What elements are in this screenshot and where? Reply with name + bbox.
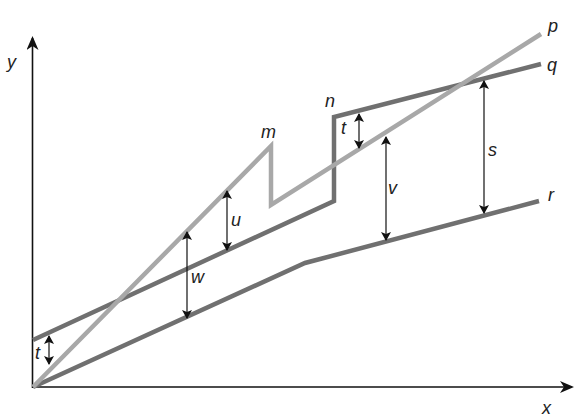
y-axis-label: y bbox=[5, 52, 17, 72]
line-labels: p q r m n bbox=[261, 16, 558, 205]
measure-t-right: t bbox=[341, 114, 359, 148]
line-p bbox=[33, 34, 541, 387]
label-n: n bbox=[325, 91, 335, 111]
measure-w: w bbox=[187, 232, 205, 318]
label-p: p bbox=[547, 16, 558, 36]
line-q bbox=[33, 64, 541, 340]
curves bbox=[33, 34, 541, 387]
label-q: q bbox=[547, 55, 557, 75]
measure-t-right-label: t bbox=[341, 118, 347, 138]
measure-u: u bbox=[227, 191, 241, 250]
measure-v: v bbox=[386, 137, 398, 240]
line-r bbox=[33, 201, 539, 387]
measure-t-left-label: t bbox=[35, 343, 41, 363]
measure-s-label: s bbox=[488, 140, 497, 160]
label-r: r bbox=[548, 185, 555, 205]
measure-v-label: v bbox=[388, 178, 398, 198]
measure-s: s bbox=[484, 81, 497, 213]
diagram: y x p q r m n t t u bbox=[0, 0, 584, 419]
x-axis-label: x bbox=[541, 398, 552, 418]
measure-u-label: u bbox=[231, 210, 241, 230]
label-m: m bbox=[261, 122, 276, 142]
measure-w-label: w bbox=[191, 267, 205, 287]
